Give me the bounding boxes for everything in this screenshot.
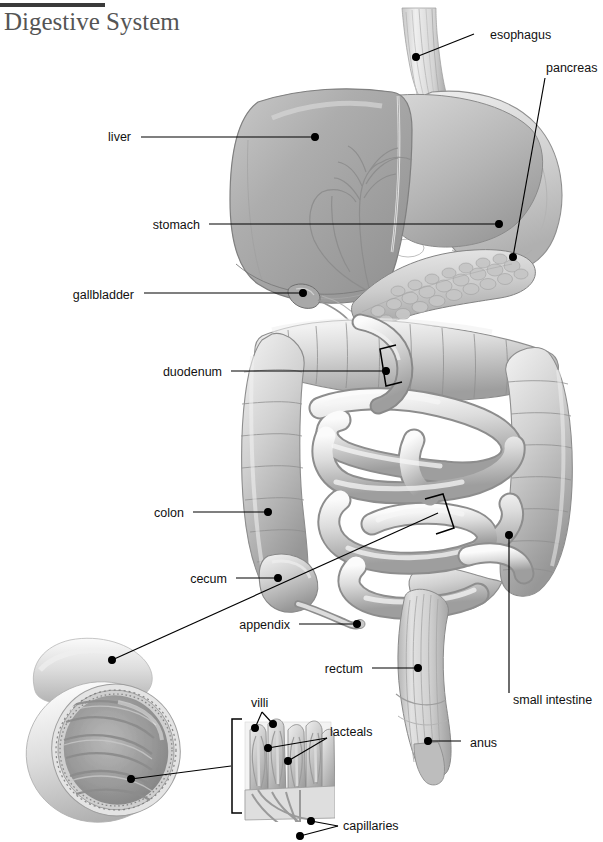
leader-dot-stomach: [496, 221, 503, 228]
leader-line-capillaries-second: [300, 826, 338, 836]
leader-dot-lacteals: [285, 758, 292, 765]
leader-dot-capillaries: [308, 818, 315, 825]
leader-dot-small-intestine: [506, 532, 513, 539]
leader-dot-anus: [425, 738, 432, 745]
label-colon: colon: [154, 507, 184, 520]
label-rectum: rectum: [325, 663, 363, 676]
leader-dot-duodenum: [383, 368, 390, 375]
leader-dot-rectum: [415, 665, 422, 672]
leader-dot-esophagus: [413, 54, 420, 61]
label-villi: villi: [251, 697, 268, 710]
label-liver: liver: [108, 131, 131, 144]
inset-colon-cross-section: [11, 638, 195, 838]
label-capillaries: capillaries: [343, 820, 399, 833]
label-stomach: stomach: [153, 219, 200, 232]
label-lacteals: lacteals: [330, 726, 372, 739]
leader-dot-appendix: [354, 621, 361, 628]
label-small-intestine: small intestine: [513, 694, 592, 707]
leader-dot-villi: [252, 725, 259, 732]
leader-dot-colon: [265, 509, 272, 516]
label-cecum: cecum: [190, 573, 227, 586]
label-esophagus: esophagus: [490, 29, 551, 42]
organ-cecum: [259, 554, 317, 612]
leader-dot-gallbladder: [300, 290, 307, 297]
label-gallbladder: gallbladder: [73, 289, 134, 302]
leader-dot-cecum: [275, 575, 282, 582]
organ-esophagus: [402, 8, 447, 96]
label-duodenum: duodenum: [163, 366, 222, 379]
anatomy-illustration: [0, 0, 603, 842]
leader-dot-villi-second: [270, 721, 277, 728]
leader-line-capillaries: [311, 821, 338, 826]
leader-dot-capillaries-second: [297, 833, 304, 840]
label-pancreas: pancreas: [546, 62, 597, 75]
label-appendix: appendix: [239, 619, 290, 632]
leader-dot-lacteals-second: [265, 745, 272, 752]
organ-anus: [414, 742, 445, 785]
inset-villi: [245, 719, 335, 836]
leader-dot-pancreas: [510, 254, 517, 261]
digestive-system-figure: Digestive System: [0, 0, 603, 842]
label-anus: anus: [470, 737, 497, 750]
leader-dot-liver: [312, 134, 319, 141]
